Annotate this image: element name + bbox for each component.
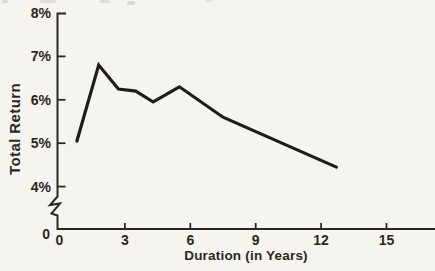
axis-line <box>50 14 435 230</box>
y-axis-title: Total Return <box>6 83 23 175</box>
x-tick-label: 9 <box>252 232 260 248</box>
x-tick-label: 6 <box>186 232 194 248</box>
x-tick-label: 12 <box>313 232 329 248</box>
y-tick-label: 4% <box>0 178 51 194</box>
total-return-line <box>77 65 337 167</box>
x-axis-title: Duration (in Years) <box>184 248 308 263</box>
x-tick-label: 0 <box>56 232 64 248</box>
chart-figure: 8% 7% 6% 5% 4% 0 0 3 6 9 12 15 Total Ret… <box>0 0 435 271</box>
y-tick-label: 7% <box>0 48 51 64</box>
y-tick-label: 8% <box>0 5 51 21</box>
x-tick-label: 15 <box>379 232 395 248</box>
x-tick-label: 3 <box>121 232 129 248</box>
plot-area <box>0 0 435 271</box>
y-axis-origin-label: 0 <box>0 226 50 242</box>
